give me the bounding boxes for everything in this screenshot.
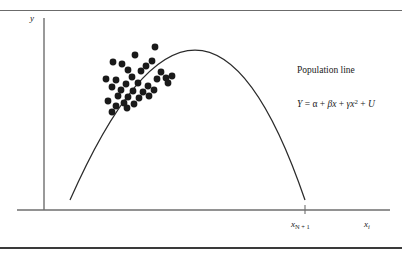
- scatter-point: [146, 93, 153, 100]
- scatter-point: [124, 105, 131, 112]
- scatter-point: [132, 52, 139, 59]
- scatter-point: [130, 88, 137, 95]
- figure-container: y xi xN + 1 Population line Y = α + βx +…: [0, 0, 402, 254]
- scatter-point: [145, 83, 152, 90]
- x-tick-label-subscript: N + 1: [295, 223, 310, 230]
- scatter-point: [135, 80, 142, 87]
- x-axis-tick-label: xN + 1: [291, 220, 310, 230]
- scatter-point: [154, 76, 161, 83]
- scatter-point: [140, 89, 147, 96]
- scatter-point: [125, 94, 132, 101]
- equation-plus-2: +: [339, 99, 344, 109]
- scatter-point: [103, 76, 110, 83]
- scatter-point: [113, 103, 120, 110]
- y-axis-label: y: [30, 14, 34, 23]
- scatter-point: [119, 61, 126, 68]
- x-axis-label: xi: [364, 220, 370, 230]
- scatter-point: [143, 63, 150, 70]
- scatter-point: [151, 87, 158, 94]
- scatter-point: [131, 101, 138, 108]
- scatter-point: [138, 68, 145, 75]
- scatter-plot-graphic: [0, 0, 402, 254]
- scatter-point: [158, 69, 165, 76]
- scatter-point: [169, 73, 176, 80]
- scatter-point: [152, 44, 159, 51]
- scatter-point: [113, 77, 120, 84]
- scatter-point: [109, 109, 116, 116]
- scatter-point-group: [103, 44, 176, 116]
- population-line-caption: Population line: [297, 66, 355, 76]
- equation-equals: =: [305, 99, 310, 109]
- scatter-point: [110, 59, 117, 66]
- scatter-point: [165, 80, 172, 87]
- equation-alpha: α: [312, 99, 317, 109]
- x-axis-label-subscript: i: [368, 223, 370, 230]
- equation-plus-1: +: [320, 99, 325, 109]
- scatter-point: [105, 98, 112, 105]
- population-line-curve: [70, 50, 305, 200]
- bottom-divider-rule: [0, 247, 402, 249]
- equation-exponent: 2: [355, 98, 358, 105]
- axes-group: [17, 18, 390, 214]
- scatter-point: [109, 84, 116, 91]
- scatter-point: [129, 74, 136, 81]
- scatter-point: [149, 58, 156, 65]
- scatter-point: [123, 81, 130, 88]
- scatter-point: [136, 95, 143, 102]
- equation-gamma-term: γx: [347, 99, 355, 109]
- scatter-point: [115, 93, 122, 100]
- scatter-point: [125, 67, 132, 74]
- population-equation: Y = α + βx + γx2 + U: [297, 99, 375, 109]
- equation-lhs: Y: [297, 99, 302, 109]
- equation-plus-3: +: [360, 99, 365, 109]
- equation-beta-term: βx: [328, 99, 337, 109]
- equation-error-term: U: [368, 99, 375, 109]
- scatter-point: [118, 87, 125, 94]
